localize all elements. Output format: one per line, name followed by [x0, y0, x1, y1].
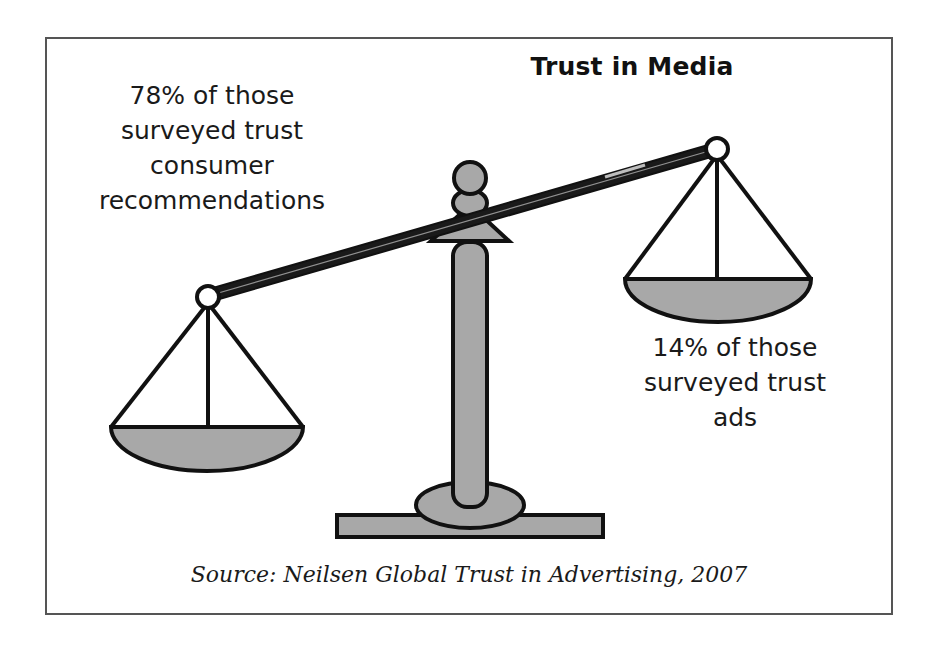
pan-left-string-outer-right	[208, 303, 303, 427]
scale-knob-sphere	[454, 162, 486, 194]
scale-column	[453, 242, 487, 507]
callout-right-line-1: 14% of those	[600, 330, 870, 365]
page-title: Trust in Media	[432, 52, 832, 81]
slide-canvas: Trust in Media 78% of those surveyed tru…	[0, 0, 938, 655]
source-citation: Source: Neilsen Global Trust in Advertis…	[45, 562, 893, 587]
callout-right-line-3: ads	[600, 400, 870, 435]
pan-right-pivot-ring	[706, 138, 728, 160]
scale-pan-left	[111, 286, 303, 471]
callout-left-line-2: surveyed trust	[52, 113, 372, 148]
consumer-recommendations-callout: 78% of those surveyed trust consumer rec…	[52, 78, 372, 218]
callout-left-line-3: consumer	[52, 148, 372, 183]
callout-right-line-2: surveyed trust	[600, 365, 870, 400]
pan-left-string-outer-left	[111, 303, 208, 427]
pan-right-string-outer-right	[717, 155, 811, 279]
pan-right-bowl	[625, 279, 811, 322]
callout-left-line-4: recommendations	[52, 183, 372, 218]
callout-left-line-1: 78% of those	[52, 78, 372, 113]
ads-callout: 14% of those surveyed trust ads	[600, 330, 870, 435]
pan-left-pivot-ring	[197, 286, 219, 308]
pan-left-bowl	[111, 427, 303, 471]
